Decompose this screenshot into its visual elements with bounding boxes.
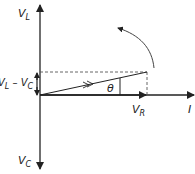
rotation-arc-arrow bbox=[118, 28, 154, 68]
label-vr: VR bbox=[132, 104, 145, 118]
label-theta: θ bbox=[107, 83, 114, 94]
label-vc: VC bbox=[18, 155, 31, 169]
double-chevron-icon bbox=[83, 81, 93, 88]
label-current: I bbox=[188, 104, 191, 115]
label-diff: VL – VC bbox=[0, 78, 33, 91]
label-vl: VL bbox=[18, 8, 30, 22]
resultant-vector bbox=[40, 72, 147, 95]
